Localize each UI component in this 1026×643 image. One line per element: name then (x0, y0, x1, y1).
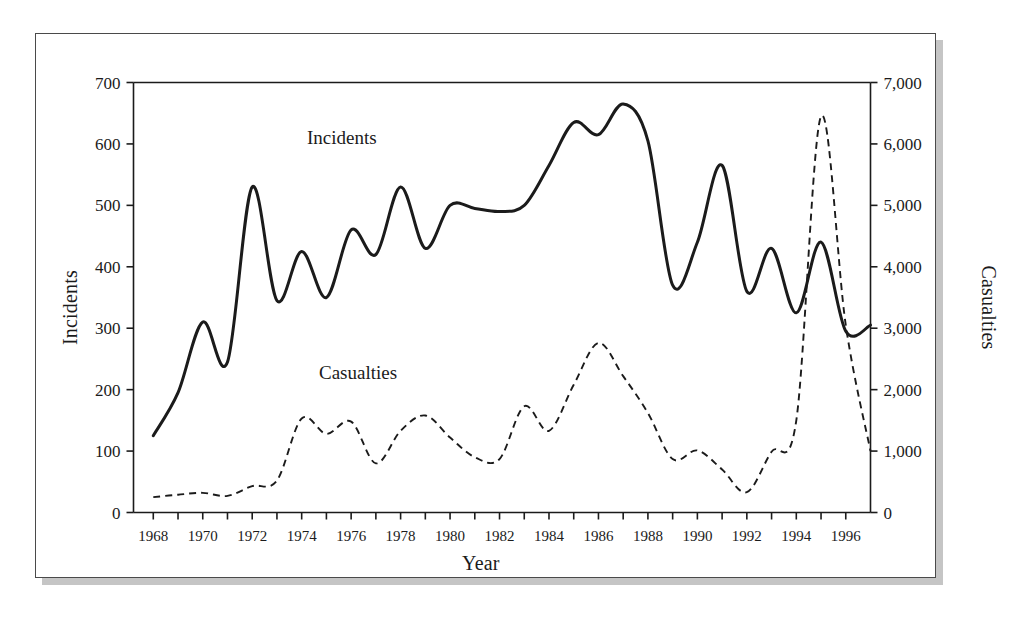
x-axis-tick-label: 1982 (485, 528, 515, 544)
series-line-incidents (153, 104, 870, 436)
y-axis-left-tick-label: 500 (95, 196, 121, 215)
x-axis-tick-label: 1990 (682, 528, 712, 544)
y-axis-left-title: Incidents (59, 218, 82, 398)
x-axis-tick-label: 1978 (386, 528, 416, 544)
x-axis-title: Year (462, 552, 500, 575)
chart-plot-area: 010020030040050060070001,0002,0003,0004,… (0, 0, 1026, 643)
x-axis-tick-label: 1992 (732, 528, 762, 544)
y-axis-left-tick-label: 700 (95, 74, 121, 93)
y-axis-right-tick-label: 6,000 (884, 135, 922, 154)
x-axis-tick-label: 1986 (583, 528, 614, 544)
series-label-casualties: Casualties (319, 362, 397, 384)
y-axis-left-tick-label: 400 (95, 258, 121, 277)
y-axis-left-tick-label: 100 (95, 442, 121, 461)
y-axis-left-tick-label: 600 (95, 135, 121, 154)
x-axis-tick-label: 1968 (138, 528, 168, 544)
figure-root: 010020030040050060070001,0002,0003,0004,… (0, 0, 1026, 643)
y-axis-left-tick-label: 300 (95, 319, 121, 338)
x-axis-tick-label: 1984 (534, 528, 565, 544)
series-label-incidents: Incidents (307, 127, 377, 149)
x-axis-tick-label: 1994 (781, 528, 812, 544)
y-axis-right-tick-label: 5,000 (884, 196, 922, 215)
x-axis-tick-label: 1976 (336, 528, 367, 544)
y-axis-right-tick-label: 3,000 (884, 319, 922, 338)
axes-layer: 010020030040050060070001,0002,0003,0004,… (95, 74, 922, 544)
y-axis-right-tick-label: 0 (884, 504, 893, 523)
x-axis-tick-label: 1974 (287, 528, 318, 544)
x-axis-tick-label: 1972 (237, 528, 267, 544)
y-axis-left-tick-label: 200 (95, 381, 121, 400)
series-layer (153, 104, 870, 497)
y-axis-right-tick-label: 7,000 (884, 74, 922, 93)
x-axis-tick-label: 1970 (188, 528, 218, 544)
x-axis-tick-label: 1988 (633, 528, 663, 544)
y-axis-right-tick-label: 4,000 (884, 258, 922, 277)
y-axis-left-tick-label: 0 (112, 504, 121, 523)
series-line-casualties (153, 115, 870, 497)
x-axis-tick-label: 1980 (435, 528, 465, 544)
y-axis-right-tick-label: 2,000 (884, 381, 922, 400)
y-axis-right-tick-label: 1,000 (884, 442, 922, 461)
y-axis-right-title: Casualties (977, 218, 1000, 398)
x-axis-tick-label: 1996 (831, 528, 862, 544)
